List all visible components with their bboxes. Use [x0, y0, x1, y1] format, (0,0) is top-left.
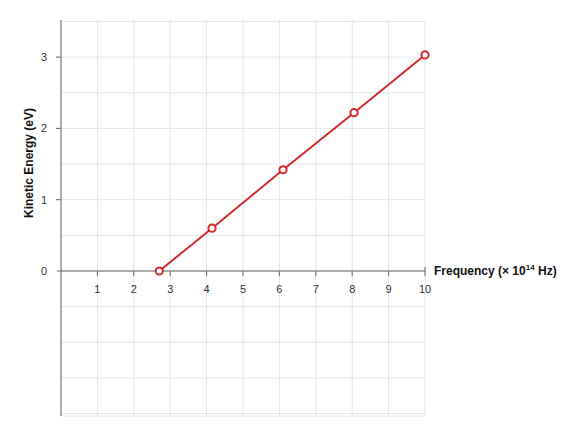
x-tick-label: 4: [204, 283, 210, 295]
y-axis-label: Kinetic Energy (eV): [22, 108, 36, 218]
data-point-marker: [421, 51, 428, 58]
x-axis-label: Frequency (× 1014 Hz): [434, 263, 557, 278]
y-tick-label: 0: [41, 265, 47, 277]
x-tick-label: 5: [240, 283, 246, 295]
y-tick-label: 3: [41, 51, 47, 63]
x-tick-label: 1: [94, 283, 100, 295]
x-tick-label: 2: [131, 283, 137, 295]
data-series: [156, 51, 429, 274]
data-point-marker: [279, 166, 286, 173]
data-point-marker: [156, 267, 163, 274]
data-point-marker: [350, 109, 357, 116]
data-point-marker: [208, 225, 215, 232]
x-tick-label: 7: [313, 283, 319, 295]
x-tick-label: 8: [349, 283, 355, 295]
chart: 123456789100123 Kinetic Energy (eV) Freq…: [0, 0, 570, 431]
x-tick-label: 6: [276, 283, 282, 295]
series-line: [159, 55, 425, 271]
x-tick-label: 3: [167, 283, 173, 295]
axes: [56, 20, 425, 416]
x-tick-label: 9: [386, 283, 392, 295]
tick-labels: 123456789100123: [41, 51, 431, 295]
y-tick-label: 2: [41, 122, 47, 134]
x-tick-label: 10: [419, 283, 431, 295]
grid: [61, 20, 425, 416]
y-tick-label: 1: [41, 194, 47, 206]
